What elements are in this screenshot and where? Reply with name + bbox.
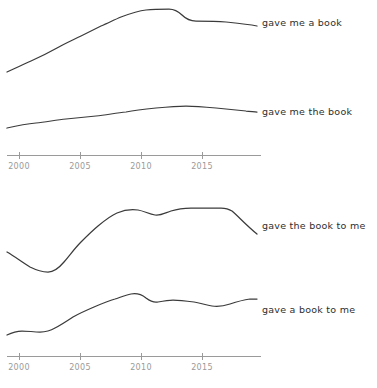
- chart-panel-bottom: gave the book to me gave a book to me 20…: [0, 180, 377, 388]
- series-line-gave-a-book-to-me: [7, 294, 257, 335]
- x-tick-label-2015-bottom: 2015: [191, 364, 213, 372]
- series-line-gave-me-the-book: [7, 106, 257, 128]
- series-label-gave-the-book-to-me[interactable]: gave the book to me: [262, 221, 366, 231]
- x-tick-label-2010-top: 2010: [130, 163, 152, 171]
- series-line-gave-the-book-to-me: [7, 208, 257, 272]
- series-label-gave-me-the-book[interactable]: gave me the book: [262, 107, 352, 117]
- x-tick-label-2000-bottom: 2000: [8, 364, 30, 372]
- series-label-gave-me-a-book[interactable]: gave me a book: [262, 18, 342, 28]
- chart-panel-top: gave me a book gave me the book 2000 200…: [0, 0, 377, 180]
- x-tick-label-2005-bottom: 2005: [69, 364, 91, 372]
- x-tick-label-2015-top: 2015: [191, 163, 213, 171]
- x-tick-label-2000-top: 2000: [8, 163, 30, 171]
- series-line-gave-me-a-book: [7, 9, 257, 72]
- series-label-gave-a-book-to-me[interactable]: gave a book to me: [262, 305, 355, 315]
- x-tick-label-2010-bottom: 2010: [130, 364, 152, 372]
- x-tick-label-2005-top: 2005: [69, 163, 91, 171]
- ngram-chart-container: gave me a book gave me the book 2000 200…: [0, 0, 377, 388]
- plot-area-bottom: [0, 180, 377, 388]
